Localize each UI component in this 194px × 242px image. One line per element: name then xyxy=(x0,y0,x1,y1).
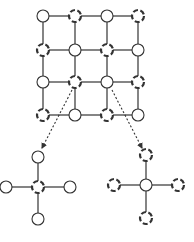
grid-graph-diagram xyxy=(0,0,194,242)
solid-center-neighborhood-neighbor-node xyxy=(108,179,120,191)
grid-node-dashed-r3c2 xyxy=(101,109,113,121)
grid-node-solid-r2c0 xyxy=(37,76,49,88)
grid-node-dashed-r3c0 xyxy=(37,109,49,121)
grid-node-solid-r3c1 xyxy=(69,109,81,121)
grid-node-solid-r1c1 xyxy=(69,44,81,56)
callout-arrows xyxy=(42,90,142,148)
grid-node-solid-r3c3 xyxy=(132,109,144,121)
grid-node-solid-r2c2 xyxy=(101,76,113,88)
grid-edges xyxy=(43,16,138,115)
grid-node-dashed-r0c3 xyxy=(132,10,144,22)
grid-node-solid-r0c2 xyxy=(101,10,113,22)
grid-node-dashed-r1c2 xyxy=(101,44,113,56)
solid-center-neighborhood-neighbor-node xyxy=(172,179,184,191)
grid-nodes xyxy=(37,10,144,121)
grid-node-dashed-r2c1 xyxy=(69,76,81,88)
dashed-center-neighborhood-neighbor-node xyxy=(64,181,76,193)
grid-node-solid-r0c0 xyxy=(37,10,49,22)
diagram-canvas xyxy=(0,0,194,242)
solid-center-neighborhood-neighbor-node xyxy=(140,149,152,161)
grid-node-dashed-r0c1 xyxy=(69,10,81,22)
grid-node-solid-r1c3 xyxy=(132,44,144,56)
dashed-center-neighborhood-neighbor-node xyxy=(32,151,44,163)
grid-node-dashed-r1c0 xyxy=(37,44,49,56)
solid-center-neighborhood-neighbor-node xyxy=(140,212,152,224)
grid-node-dashed-r2c3 xyxy=(132,76,144,88)
dashed-center-neighborhood-neighbor-node xyxy=(32,213,44,225)
solid-center-neighborhood xyxy=(108,149,184,224)
solid-center-neighborhood-center-node xyxy=(140,179,152,191)
dashed-center-neighborhood-center-node xyxy=(32,181,44,193)
dashed-center-neighborhood-neighbor-node xyxy=(0,181,12,193)
neighborhood-callouts xyxy=(0,149,184,225)
dashed-center-neighborhood xyxy=(0,151,76,225)
